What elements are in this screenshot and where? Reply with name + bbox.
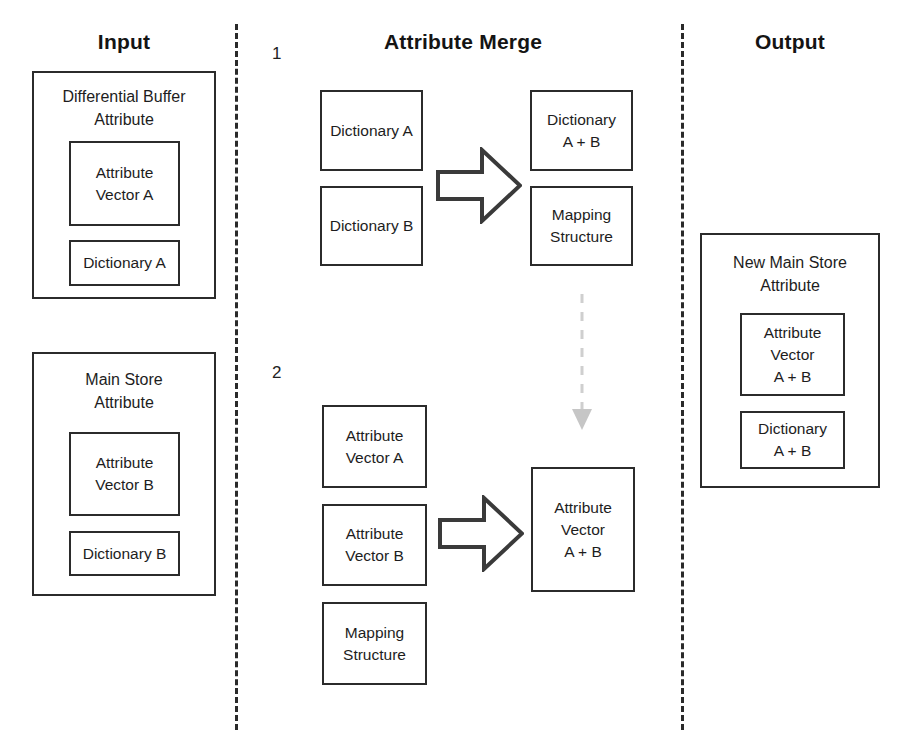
box-dictionary-a-label: Dictionary A xyxy=(326,120,417,142)
box-main-store-attribute-label: Main Store Attribute xyxy=(34,368,214,414)
box-attribute-vector-a-plus-b-output-label: Attribute Vector A + B xyxy=(760,322,826,388)
box-dictionary-a-plus-b-output: Dictionary A + B xyxy=(740,411,845,469)
box-attribute-vector-a-plus-b-output: Attribute Vector A + B xyxy=(740,313,845,396)
box-mapping-structure-step2: Mapping Structure xyxy=(322,602,427,685)
box-attribute-vector-a-label: Attribute Vector A xyxy=(342,425,408,469)
box-attribute-vector-b-input-label: Attribute Vector B xyxy=(91,452,158,496)
column-separator-right xyxy=(681,24,684,730)
box-dictionary-a-plus-b: Dictionary A + B xyxy=(530,90,633,171)
column-separator-left xyxy=(235,24,238,730)
box-dictionary-b-label: Dictionary B xyxy=(326,215,418,237)
box-dictionary-a-plus-b-label: Dictionary A + B xyxy=(543,109,620,153)
box-mapping-structure-step1: Mapping Structure xyxy=(530,186,633,266)
box-differential-buffer-attribute-label: Differential Buffer Attribute xyxy=(34,85,214,131)
box-dictionary-a: Dictionary A xyxy=(320,90,423,171)
box-attribute-vector-a-plus-b: Attribute Vector A + B xyxy=(531,467,635,592)
step-number-2: 2 xyxy=(272,363,281,383)
box-mapping-structure-step2-label: Mapping Structure xyxy=(339,622,410,666)
box-attribute-vector-b: Attribute Vector B xyxy=(322,504,427,586)
box-attribute-vector-a-input: Attribute Vector A xyxy=(69,141,180,226)
section-title-input: Input xyxy=(32,30,216,54)
box-attribute-vector-a: Attribute Vector A xyxy=(322,405,427,488)
box-dictionary-b: Dictionary B xyxy=(320,186,423,266)
merge-arrow-right-step2-icon xyxy=(438,495,524,572)
dashed-down-arrow-icon xyxy=(566,292,598,432)
box-attribute-vector-b-input: Attribute Vector B xyxy=(69,432,180,516)
box-dictionary-a-input-label: Dictionary A xyxy=(79,252,170,274)
box-mapping-structure-step1-label: Mapping Structure xyxy=(546,204,617,248)
merge-arrow-right-step1-icon xyxy=(436,147,522,224)
box-dictionary-a-input: Dictionary A xyxy=(69,240,180,286)
step-number-1: 1 xyxy=(272,44,281,64)
box-dictionary-a-plus-b-output-label: Dictionary A + B xyxy=(754,418,831,462)
box-dictionary-b-input: Dictionary B xyxy=(69,531,180,576)
box-attribute-vector-b-label: Attribute Vector B xyxy=(341,523,408,567)
diagram-canvas: Input Attribute Merge Output 1 2 Differe… xyxy=(0,0,906,733)
section-title-attribute-merge: Attribute Merge xyxy=(322,30,604,54)
section-title-output: Output xyxy=(700,30,880,54)
box-dictionary-b-input-label: Dictionary B xyxy=(79,543,171,565)
box-attribute-vector-a-plus-b-label: Attribute Vector A + B xyxy=(550,497,616,563)
box-new-main-store-attribute-label: New Main Store Attribute xyxy=(702,251,878,297)
box-attribute-vector-a-input-label: Attribute Vector A xyxy=(92,162,158,206)
